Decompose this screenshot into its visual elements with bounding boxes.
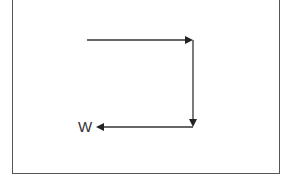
path-diagram [0,0,289,186]
arrow-right [87,36,193,44]
arrow-down [189,40,197,127]
arrow-left [96,123,193,131]
point-label-w: W [78,119,92,135]
